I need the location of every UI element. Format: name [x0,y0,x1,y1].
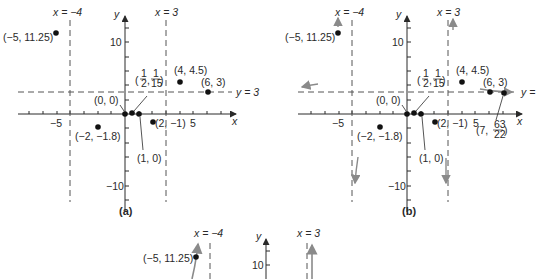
label-point-2-neg1: (2, −1) [437,117,468,129]
tick-label-5: 5 [473,117,479,129]
svg-text:(: ( [417,74,421,86]
label-point-half-fifteenth: ( 1 2 , 1 15 ) [417,67,446,89]
label-point-neg5: (−5, 11.25) [143,252,193,264]
arrow-left-horizontal-asymptote-icon [302,84,318,87]
arrow-down-left-asymptote-icon [355,157,358,183]
panel-a: x = −4 x = 3 y = 3 y x (−5, 11.25) (0, 0… [3,6,259,217]
point-half-fifteenth [129,110,135,116]
label-point-neg2: (−2, −1.8) [357,130,403,142]
label-point-1-0: (1, 0) [419,152,444,164]
svg-text:): ) [504,124,508,136]
tick-label-10: 10 [110,36,122,48]
label-point-half-fifteenth: ( 1 2 , 1 15 ) [135,67,164,89]
tick-label-neg5: −5 [50,117,62,129]
label-y-3: y = 3 [235,86,259,98]
tick-label-10: 10 [252,259,264,271]
point-neg5-11.25 [335,30,341,36]
point-0-0 [404,111,410,117]
leader-lines [120,96,147,150]
label-point-2-neg1: (2, −1) [155,117,186,129]
points [53,30,211,130]
tick-label-5: 5 [190,117,196,129]
x-axis-label: x [231,115,238,127]
tick-label-neg10: −10 [388,180,406,192]
tick-label-neg10: −10 [106,180,124,192]
caption-b: (b) [402,205,416,217]
y-axis-label: y [113,8,120,20]
label-point-6-3: (6, 3) [483,76,508,88]
label-point-7-63-22: (7, 63 22 ) [476,118,508,140]
point-neg5-11.25 [193,254,199,260]
point-7-63-22 [501,90,507,96]
label-point-0-0: (0, 0) [376,94,401,106]
panel-b: x = −4 x = 3 y = y x (−5, 11.25) (0, 0) … [285,6,535,217]
svg-text:): ) [160,74,164,86]
x-axis-label: x [516,115,523,127]
point-half-fifteenth [411,110,417,116]
label-point-neg5: (−5, 11.25) [285,31,335,43]
svg-text:(: ( [135,74,139,86]
tick-label-neg5: −5 [332,117,344,129]
label-point-neg2: (−2, −1.8) [75,130,121,142]
label-point-1-0: (1, 0) [137,152,162,164]
label-point-4-4.5: (4, 4.5) [174,64,207,76]
label-x-minus-4: x = −4 [193,227,223,239]
label-point-0-0: (0, 0) [94,94,119,106]
svg-text:,: , [147,74,150,86]
point-1-0 [136,111,142,117]
y-axis-label: y [395,8,402,20]
point-6-3 [487,89,493,95]
label-x-minus-4: x = −4 [334,6,364,18]
point-neg5-11.25 [53,30,59,36]
label-x-3: x = 3 [154,6,178,18]
svg-text:,: , [429,74,432,86]
label-point-6-3: (6, 3) [201,76,226,88]
point-4-4.5 [177,79,183,85]
svg-text:): ) [442,74,446,86]
y-axis-label: y [255,230,262,242]
label-x-3: x = 3 [296,227,320,239]
tick-label-10: 10 [392,36,404,48]
arrow-right-horizontal-asymptote-icon [480,89,512,92]
point-1-0 [418,111,424,117]
caption-a: (a) [119,205,133,217]
point-4-4.5 [459,79,465,85]
rational-function-graphs: x = −4 x = 3 y = 3 y x (−5, 11.25) (0, 0… [0,0,538,279]
points [335,30,507,130]
label-x-3: x = 3 [436,6,460,18]
label-y-3: y = [520,86,535,98]
label-x-minus-4: x = −4 [52,6,82,18]
point-6-3 [205,89,211,95]
point-neg2-neg1.8 [95,124,101,130]
label-point-4-4.5: (4, 4.5) [456,64,489,76]
label-point-neg5: (−5, 11.25) [3,31,53,43]
point-neg2-neg1.8 [377,124,383,130]
point-0-0 [122,111,128,117]
panel-c: x = −4 x = 3 y (−5, 11.25) 10 [143,227,320,279]
